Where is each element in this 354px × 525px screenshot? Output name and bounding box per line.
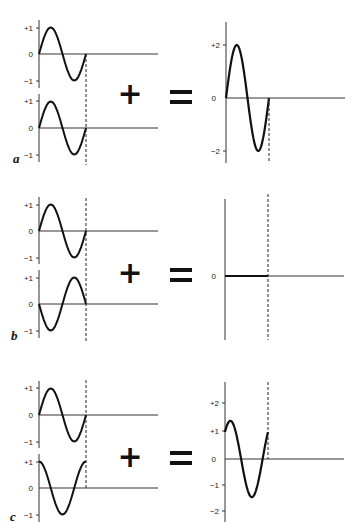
plus-sign: + bbox=[117, 255, 142, 290]
panel-a: +1 0 −1 +1 0 −1 a + bbox=[13, 20, 345, 166]
tick-zero: 0 bbox=[29, 124, 34, 133]
tick-minus-1: −1 bbox=[24, 511, 34, 520]
equals-sign bbox=[170, 268, 192, 282]
tick-plus-1: +1 bbox=[24, 274, 34, 283]
panel-label: b bbox=[11, 328, 18, 343]
tick-minus-2: −2 bbox=[211, 147, 221, 156]
figure: +1 0 −1 +1 0 −1 a + bbox=[0, 0, 354, 525]
tick-plus-1: +1 bbox=[24, 97, 34, 106]
panel-a-result: +2 0 −2 bbox=[211, 22, 345, 163]
tick-minus-2: −2 bbox=[210, 507, 220, 516]
tick-zero: 0 bbox=[29, 300, 34, 309]
tick-minus-1: −1 bbox=[24, 254, 34, 263]
tick-minus-1: −1 bbox=[24, 438, 34, 447]
tick-zero: 0 bbox=[29, 411, 34, 420]
tick-minus-1: −1 bbox=[24, 327, 34, 336]
tick-minus-1: −1 bbox=[24, 77, 34, 86]
tick-zero: 0 bbox=[29, 50, 34, 59]
panel-b-wave-1: +1 0 −1 bbox=[24, 197, 158, 264]
equals-sign bbox=[170, 90, 192, 104]
tick-plus-1: +1 bbox=[24, 201, 34, 210]
panel-c-result: +2 +1 0 −1 −2 bbox=[210, 382, 344, 522]
equals-sign bbox=[170, 451, 192, 465]
superposition-diagram: +1 0 −1 +1 0 −1 a + bbox=[0, 0, 354, 525]
tick-plus-2: +2 bbox=[211, 41, 221, 50]
tick-zero: 0 bbox=[29, 484, 34, 493]
tick-zero: 0 bbox=[212, 272, 217, 281]
panel-c-wave-1: +1 0 −1 bbox=[24, 381, 158, 448]
panel-label: a bbox=[13, 151, 20, 166]
tick-plus-2: +2 bbox=[210, 399, 220, 408]
tick-plus-1: +1 bbox=[24, 384, 34, 393]
plus-sign: + bbox=[117, 439, 142, 474]
tick-zero: 0 bbox=[29, 227, 34, 236]
panel-b: +1 0 −1 +1 0 −1 b + bbox=[11, 194, 344, 343]
tick-plus-1: +1 bbox=[210, 427, 220, 436]
tick-plus-1: +1 bbox=[24, 458, 34, 467]
tick-zero: 0 bbox=[212, 455, 217, 464]
plus-sign: + bbox=[117, 76, 142, 111]
panel-b-result: 0 bbox=[212, 194, 344, 340]
tick-zero: 0 bbox=[212, 94, 217, 103]
panel-c: +1 0 −1 +1 0 −1 c + bbox=[10, 380, 344, 524]
tick-minus-1: −1 bbox=[210, 481, 220, 490]
tick-plus-1: +1 bbox=[24, 24, 34, 33]
tick-minus-1: −1 bbox=[24, 151, 34, 160]
panel-label: c bbox=[10, 509, 16, 524]
